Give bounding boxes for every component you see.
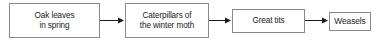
food-chain-diagram: Oak leaves in spring Caterpillars of the…: [0, 0, 377, 43]
arrow-oak-leaves-to-caterpillars: [100, 16, 125, 25]
diagram-node-caterpillars: Caterpillars of the winter moth: [125, 3, 209, 38]
diagram-node-oak-leaves: Oak leaves in spring: [9, 3, 100, 38]
diagram-node-weasels: Weasels: [329, 12, 371, 31]
diagram-node-great-tits-label: Great tits: [252, 16, 284, 25]
diagram-node-great-tits: Great tits: [232, 9, 305, 33]
arrow-great-tits-to-weasels: [305, 16, 329, 25]
diagram-node-oak-leaves-label: Oak leaves in spring: [35, 11, 75, 29]
diagram-node-weasels-label: Weasels: [334, 17, 365, 26]
diagram-node-caterpillars-label: Caterpillars of the winter moth: [140, 11, 194, 29]
arrow-caterpillars-to-great-tits: [209, 16, 232, 25]
